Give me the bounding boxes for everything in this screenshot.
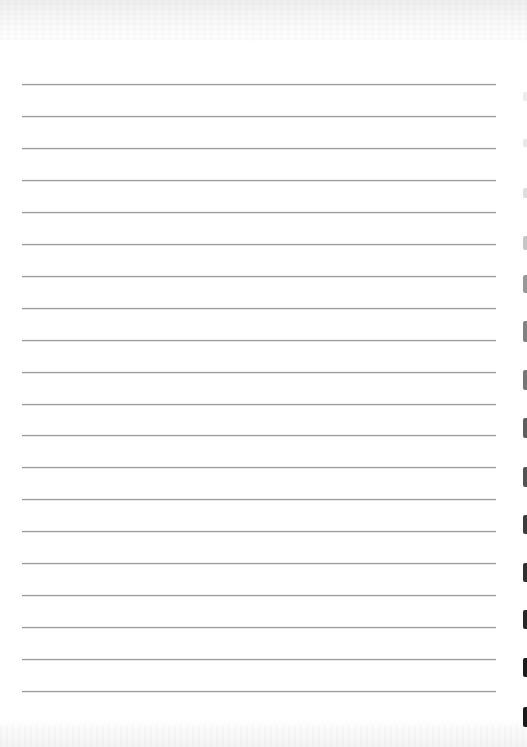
scan-noise-top (0, 0, 527, 40)
rule-line (22, 372, 496, 373)
rule-line (22, 435, 496, 436)
rule-line (22, 404, 496, 405)
binding-hole-mark (523, 321, 527, 342)
scan-noise-bottom (0, 725, 527, 747)
rule-line (22, 84, 496, 85)
rule-line (22, 180, 496, 181)
rule-line (22, 340, 496, 341)
binding-hole-mark (523, 707, 527, 727)
binding-hole-mark (523, 236, 527, 250)
binding-hole-mark (523, 139, 527, 147)
rule-line (22, 499, 496, 500)
binding-hole-mark (523, 370, 527, 390)
binding-hole-mark (523, 610, 527, 629)
rule-line (22, 212, 496, 213)
rule-line (22, 563, 496, 564)
rule-line (22, 148, 496, 149)
binding-hole-mark (523, 658, 527, 677)
binding-hole-mark (523, 92, 527, 101)
rule-line (22, 467, 496, 468)
rule-line (22, 244, 496, 245)
rule-line (22, 116, 496, 117)
binding-hole-mark (523, 418, 527, 438)
binding-hole-mark (523, 563, 527, 582)
binding-hole-mark (523, 515, 527, 534)
rule-line (22, 659, 496, 660)
rule-line (22, 627, 496, 628)
rule-line (22, 531, 496, 532)
binding-hole-mark (523, 275, 527, 293)
rule-line (22, 276, 496, 277)
rule-line (22, 595, 496, 596)
binding-hole-mark (523, 467, 527, 487)
lined-paper-page (0, 0, 527, 747)
rule-line (22, 691, 496, 692)
binding-hole-mark (523, 188, 527, 198)
rule-line (22, 308, 496, 309)
